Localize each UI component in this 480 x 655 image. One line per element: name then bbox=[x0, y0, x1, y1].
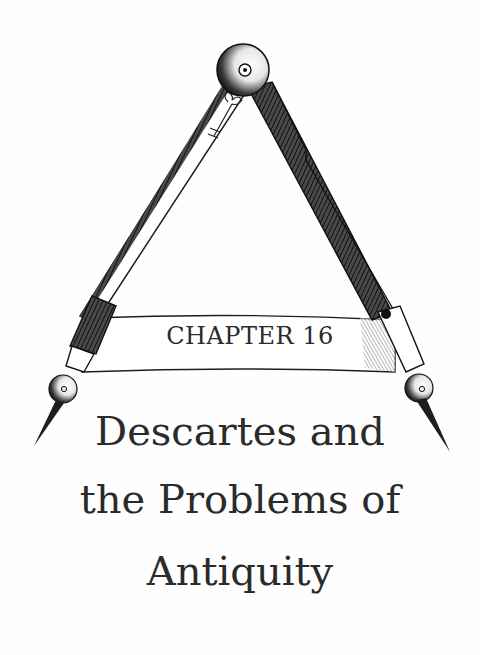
chapter-title-line-3: Antiquity bbox=[0, 548, 480, 594]
chapter-number-label: CHAPTER 16 bbox=[140, 322, 360, 350]
chapter-title-line-1: Descartes and bbox=[0, 408, 480, 454]
compass-hinge bbox=[217, 44, 269, 96]
chapter-title-page: CHAPTER 16 Descartes and the Problems of… bbox=[0, 0, 480, 655]
compass-left-leg bbox=[34, 86, 246, 446]
compass-right-leg bbox=[248, 82, 450, 452]
chapter-title-line-2: the Problems of bbox=[0, 476, 480, 522]
